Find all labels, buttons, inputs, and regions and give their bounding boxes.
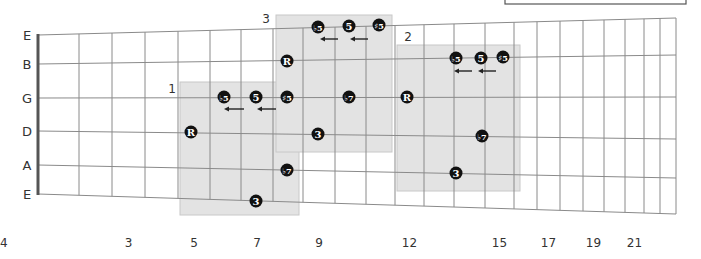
fret-number: 3	[125, 236, 133, 250]
note-marker: ♭5	[450, 52, 463, 65]
note-label: 3	[315, 129, 322, 140]
note-marker: ♯5	[373, 19, 386, 32]
note-marker: ♭5	[218, 91, 231, 104]
note-label: ♭7	[477, 132, 486, 142]
fret-numbers: 3579121517192124	[0, 236, 642, 250]
position-box-3	[276, 15, 392, 152]
note-marker: 3	[450, 167, 463, 180]
note-label: 5	[346, 21, 353, 32]
note-marker: R	[401, 91, 414, 104]
note-marker: 3	[250, 195, 263, 208]
note-marker: 5	[250, 91, 263, 104]
fret-number: 9	[315, 236, 323, 250]
note-label: R	[403, 92, 412, 103]
string-line	[38, 194, 676, 214]
note-label: ♭7	[282, 166, 291, 176]
fret-number: 12	[402, 236, 417, 250]
note-marker: 3	[312, 128, 325, 141]
position-label: 1	[168, 82, 176, 96]
string-label: G	[22, 91, 32, 106]
string-line	[38, 165, 676, 178]
note-label: ♭5	[451, 54, 460, 64]
note-label: ♭7	[344, 93, 353, 103]
note-label: ♯5	[282, 93, 291, 103]
note-marker: ♭7	[281, 164, 294, 177]
position-boxes	[180, 15, 520, 215]
fret-number: 17	[541, 236, 556, 250]
note-marker: ♯5	[281, 91, 294, 104]
string-labels: EBGDAE	[22, 28, 32, 202]
note-label: 5	[253, 92, 260, 103]
note-label: ♭5	[219, 93, 228, 103]
note-label: ♭5	[313, 23, 322, 33]
legend-box	[505, 0, 686, 4]
note-marker: ♯5	[497, 51, 510, 64]
string-label: D	[22, 124, 32, 139]
note-label: R	[187, 127, 196, 138]
note-marker: ♭5	[312, 21, 325, 34]
string-label: E	[23, 28, 31, 43]
fret-number: 24	[0, 236, 8, 250]
note-label: R	[283, 56, 292, 67]
fret-number: 21	[627, 236, 642, 250]
note-marker: 5	[343, 20, 356, 33]
note-label: ♯5	[498, 53, 507, 63]
legend-box-frame	[505, 0, 686, 4]
fretboard-diagram: EBGDAE 3579121517192124 R♭55♯5♭73R♭55♯5♭…	[0, 0, 701, 259]
note-label: 3	[253, 196, 260, 207]
fret-number: 19	[586, 236, 601, 250]
position-label: 2	[404, 30, 412, 44]
note-marker: R	[281, 55, 294, 68]
note-label: ♯5	[374, 21, 383, 31]
note-marker: 5	[475, 52, 488, 65]
note-marker: ♭7	[476, 130, 489, 143]
string-label: B	[23, 57, 32, 72]
position-label: 3	[262, 12, 270, 26]
fret-number: 5	[190, 236, 198, 250]
note-marker: R	[185, 126, 198, 139]
string-label: E	[23, 187, 31, 202]
fret-number: 7	[253, 236, 261, 250]
note-label: 5	[478, 53, 485, 64]
string-line	[38, 97, 676, 98]
note-label: 3	[453, 168, 460, 179]
note-marker: ♭7	[343, 91, 356, 104]
string-label: A	[23, 158, 32, 173]
fret-number: 15	[492, 236, 507, 250]
